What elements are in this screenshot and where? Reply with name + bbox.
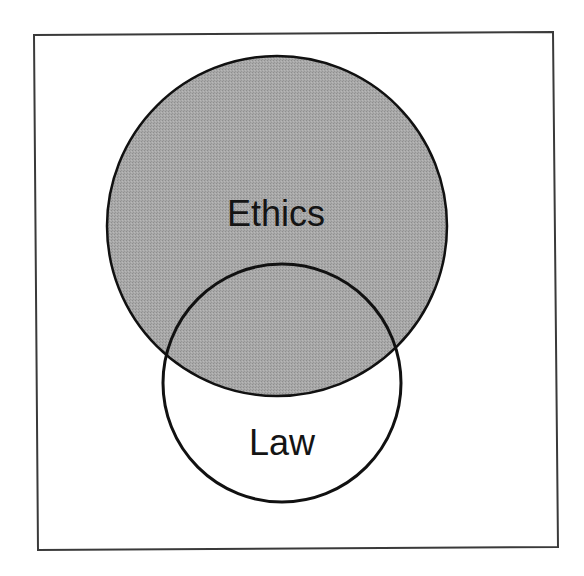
law-label: Law: [249, 422, 316, 463]
ethics-label: Ethics: [227, 193, 325, 234]
venn-diagram: Ethics Law: [0, 0, 584, 576]
